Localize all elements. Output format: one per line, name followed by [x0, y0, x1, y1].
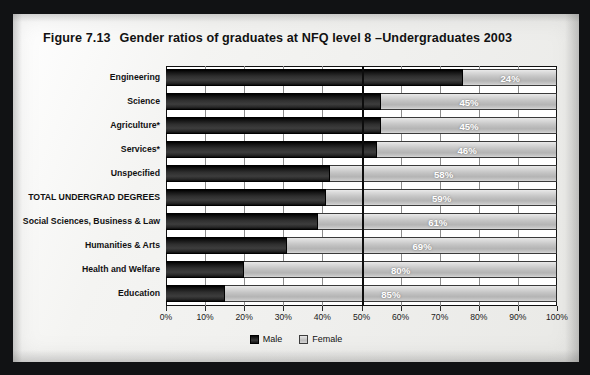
- bar-value-label: 45%: [459, 120, 478, 131]
- legend-item-male: Male: [250, 334, 283, 344]
- x-axis-tick-label: 10%: [196, 312, 213, 322]
- bar-value-label: 69%: [412, 240, 431, 251]
- category-label: Unspecified: [111, 165, 160, 182]
- bar-segment-male: [166, 213, 318, 230]
- chart-legend: Male Female: [13, 334, 579, 344]
- x-axis-tick: [440, 306, 441, 311]
- legend-label-male: Male: [263, 334, 283, 344]
- x-axis-tick-label: 80%: [470, 312, 487, 322]
- category-label: Humanities & Arts: [85, 237, 160, 254]
- x-axis-tick: [166, 306, 167, 311]
- category-label: Science: [127, 93, 160, 110]
- legend-item-female: Female: [299, 334, 342, 344]
- x-axis-tick-label: 60%: [392, 312, 409, 322]
- x-axis-tick-label: 40%: [314, 312, 331, 322]
- category-label: TOTAL UNDERGRAD DEGREES: [28, 189, 160, 206]
- x-axis-tick-label: 20%: [236, 312, 253, 322]
- bar-value-label: 45%: [459, 96, 478, 107]
- x-axis-tick: [557, 306, 558, 311]
- category-label: Social Sciences, Business & Law: [23, 213, 160, 230]
- x-axis-tick-label: 50%: [353, 312, 370, 322]
- scan-frame: Figure 7.13Gender ratios of graduates at…: [0, 0, 590, 375]
- bar-segment-male: [166, 69, 463, 86]
- bar-value-label: 59%: [432, 192, 451, 203]
- bar-segment-male: [166, 93, 381, 110]
- category-label: Education: [118, 285, 160, 302]
- bar-segment-male: [166, 165, 330, 182]
- x-axis-tick: [244, 306, 245, 311]
- bar-value-label: 58%: [434, 168, 453, 179]
- category-label: Services*: [121, 141, 160, 158]
- x-axis-tick-label: 70%: [431, 312, 448, 322]
- bar-value-label: 46%: [457, 144, 476, 155]
- legend-label-female: Female: [312, 334, 342, 344]
- bar-segment-male: [166, 189, 326, 206]
- x-axis-tick-label: 90%: [509, 312, 526, 322]
- x-axis-tick: [479, 306, 480, 311]
- x-axis-tick: [401, 306, 402, 311]
- x-axis-tick: [205, 306, 206, 311]
- x-axis-tick: [283, 306, 284, 311]
- x-axis-tick-label: 0%: [160, 312, 172, 322]
- x-axis-tick: [362, 306, 363, 311]
- figure-page: Figure 7.13Gender ratios of graduates at…: [13, 14, 579, 362]
- legend-swatch-female-icon: [299, 335, 308, 344]
- category-label: Engineering: [110, 69, 160, 86]
- bar-segment-male: [166, 117, 381, 134]
- bar-segment-male: [166, 261, 244, 278]
- reference-line-50: [362, 66, 364, 306]
- bar-segment-male: [166, 237, 287, 254]
- bar-value-label: 24%: [500, 72, 519, 83]
- x-axis-tick: [518, 306, 519, 311]
- category-label: Health and Welfare: [82, 261, 160, 278]
- x-axis-tick-label: 30%: [275, 312, 292, 322]
- x-axis-tick-label: 100%: [546, 312, 568, 322]
- legend-swatch-male-icon: [250, 335, 259, 344]
- bar-value-label: 85%: [381, 288, 400, 299]
- bar-value-label: 61%: [428, 216, 447, 227]
- bar-segment-male: [166, 141, 377, 158]
- bar-value-label: 80%: [391, 264, 410, 275]
- category-label: Agriculture*: [110, 117, 160, 134]
- x-axis-tick: [322, 306, 323, 311]
- chart-area: 24%45%45%46%58%59%61%69%80%85% Engineeri…: [13, 14, 579, 362]
- bar-segment-male: [166, 285, 225, 302]
